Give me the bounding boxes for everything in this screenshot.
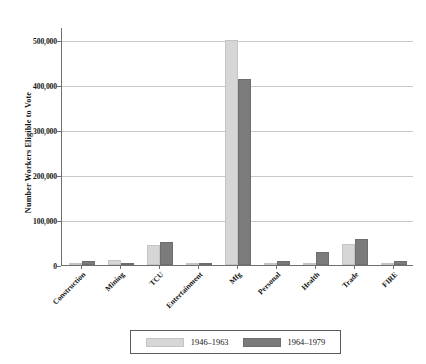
x-tick-mark xyxy=(354,266,355,269)
bar-chart-figure: Number Workers Eligible to Vote 0100,000… xyxy=(0,0,426,364)
x-tick-mark xyxy=(315,266,316,269)
x-tick-mark xyxy=(159,266,160,269)
x-tick-mark xyxy=(393,266,394,269)
bar xyxy=(160,242,173,265)
y-tick-mark xyxy=(57,266,61,267)
bar xyxy=(108,260,121,265)
y-tick-label: 0 xyxy=(0,262,57,271)
bar xyxy=(121,263,134,265)
x-tick-mark xyxy=(198,266,199,269)
bar xyxy=(381,263,394,265)
bar xyxy=(225,40,238,265)
legend-item: 1946–1963 xyxy=(146,338,229,347)
bar xyxy=(199,263,212,265)
y-tick-label: 200,000 xyxy=(0,172,57,181)
bar-group xyxy=(297,252,336,265)
bar xyxy=(264,263,277,265)
plot-area xyxy=(61,28,413,266)
y-tick-label: 400,000 xyxy=(0,82,57,91)
x-tick-mark xyxy=(81,266,82,269)
bar xyxy=(277,261,290,265)
bar-group xyxy=(179,263,218,265)
bar-group xyxy=(375,261,414,265)
bar-group xyxy=(140,242,179,265)
x-tick-mark xyxy=(237,266,238,269)
bar xyxy=(303,263,316,265)
bar-group xyxy=(336,239,375,265)
bar-group xyxy=(101,260,140,265)
bar xyxy=(316,252,329,265)
bar xyxy=(238,79,251,265)
bar xyxy=(355,239,368,265)
bar xyxy=(82,261,95,265)
bar-group xyxy=(218,40,257,265)
y-tick-label: 100,000 xyxy=(0,217,57,226)
bar xyxy=(394,261,407,265)
legend-label: 1964–1979 xyxy=(288,338,326,347)
y-tick-label: 300,000 xyxy=(0,127,57,136)
chart-legend: 1946–19631964–1979 xyxy=(130,330,341,354)
bar xyxy=(186,263,199,265)
legend-swatch-icon xyxy=(243,338,281,347)
bar xyxy=(69,263,82,265)
x-tick-mark xyxy=(120,266,121,269)
legend-swatch-icon xyxy=(146,338,184,347)
bar-group xyxy=(62,261,101,265)
bar-group xyxy=(258,261,297,265)
bar xyxy=(342,244,355,265)
legend-label: 1946–1963 xyxy=(191,338,229,347)
y-tick-label: 500,000 xyxy=(0,37,57,46)
legend-item: 1964–1979 xyxy=(243,338,326,347)
bar xyxy=(147,245,160,265)
x-tick-mark xyxy=(276,266,277,269)
